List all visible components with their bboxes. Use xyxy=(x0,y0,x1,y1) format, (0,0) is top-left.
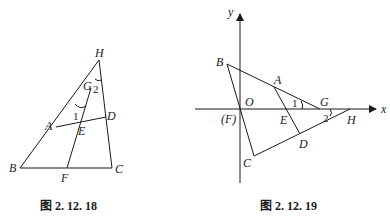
label-angle-1: 1 xyxy=(292,97,298,109)
figure-2-12-19 xyxy=(195,14,376,183)
label-angle-2: 2 xyxy=(323,112,329,124)
label-F: (F) xyxy=(221,112,236,126)
label-B: B xyxy=(216,55,224,69)
angle-1-arc xyxy=(75,104,86,108)
label-E: E xyxy=(279,113,288,127)
figure-2-12-18-labels: H G 2 1 A D E B C F xyxy=(9,46,124,185)
label-angle-2: 2 xyxy=(93,83,99,95)
label-H: H xyxy=(94,46,105,60)
label-C: C xyxy=(243,156,252,170)
segment-BH xyxy=(20,60,99,168)
angle-1-arc xyxy=(301,101,303,109)
angle-2-arc xyxy=(95,79,101,81)
label-A: A xyxy=(273,73,282,87)
label-G: G xyxy=(320,95,329,109)
label-E: E xyxy=(77,124,86,138)
caption-figure-2-12-19: 图 2. 12. 19 xyxy=(260,196,317,214)
caption-figure-2-12-18: 图 2. 12. 18 xyxy=(40,196,97,214)
label-D: D xyxy=(298,137,308,151)
label-A: A xyxy=(44,119,53,133)
label-angle-1: 1 xyxy=(73,110,79,122)
label-G: G xyxy=(83,79,92,93)
label-D: D xyxy=(106,109,116,123)
label-B: B xyxy=(9,161,17,175)
figure-2-12-19-labels: y x B A O (F) 1 G E 2 H D C xyxy=(216,5,387,170)
label-C: C xyxy=(115,162,124,176)
diagram-canvas: H G 2 1 A D E B C F y x B A O (F) 1 G E … xyxy=(0,0,390,218)
label-x: x xyxy=(380,102,387,116)
label-O: O xyxy=(245,95,254,109)
label-H: H xyxy=(346,113,357,127)
figure-2-12-18 xyxy=(20,60,112,168)
angle-2-arc xyxy=(330,109,332,116)
label-F: F xyxy=(60,171,69,185)
label-y: y xyxy=(227,5,234,19)
